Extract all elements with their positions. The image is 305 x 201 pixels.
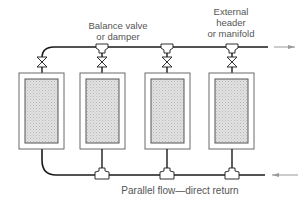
- header-label-line3: or manifold: [198, 28, 264, 39]
- balance-valve-label-line1: Balance valve: [78, 20, 158, 31]
- unit-4: [209, 73, 254, 149]
- diagram-caption: Parallel flow—direct return: [100, 185, 260, 196]
- supply-stems: [42, 53, 232, 73]
- balance-valve-label-line2: or damper: [78, 31, 158, 42]
- header-label-line1: External: [198, 6, 264, 17]
- supply-tee-icons: [96, 44, 238, 53]
- return-stems: [102, 149, 232, 170]
- return-tee-icons: [95, 168, 239, 179]
- header-label: External header or manifold: [198, 6, 264, 39]
- balance-valve-label: Balance valve or damper: [78, 20, 158, 42]
- header-label-line2: header: [198, 17, 264, 28]
- unit-1: [19, 73, 64, 149]
- balance-valve-icons: [37, 57, 237, 67]
- unit-2: [80, 73, 125, 149]
- unit-3: [145, 73, 190, 149]
- return-arrow-icon: [272, 173, 298, 177]
- supply-arrow-icon: [274, 45, 295, 49]
